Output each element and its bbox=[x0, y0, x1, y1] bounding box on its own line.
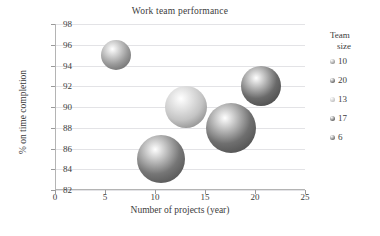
y-axis-tick-mark bbox=[51, 45, 55, 46]
y-axis-tick-mark bbox=[51, 107, 55, 108]
data-point-bubble bbox=[241, 66, 281, 106]
x-axis-tick-mark bbox=[105, 190, 106, 194]
data-point-bubble bbox=[137, 135, 185, 183]
y-axis-tick-mark bbox=[51, 24, 55, 25]
x-axis-tick-mark bbox=[255, 190, 256, 194]
legend-item[interactable]: 10 bbox=[330, 52, 378, 71]
plot-area bbox=[55, 24, 305, 190]
legend-title-line2: size bbox=[330, 41, 378, 52]
legend-item-label: 13 bbox=[338, 95, 347, 104]
bubble-chart: Work team performance % on time completi… bbox=[0, 0, 380, 236]
legend-item[interactable]: 20 bbox=[330, 71, 378, 90]
legend-title-line1: Team bbox=[330, 30, 378, 41]
data-points-layer bbox=[56, 24, 305, 189]
legend-item[interactable]: 17 bbox=[330, 109, 378, 128]
y-axis-tick-mark bbox=[51, 169, 55, 170]
x-axis-label: Number of projects (year) bbox=[55, 205, 305, 215]
legend-item-label: 10 bbox=[338, 57, 347, 66]
x-axis-tick-mark bbox=[55, 190, 56, 194]
legend-items: 102013176 bbox=[330, 52, 378, 147]
legend-swatch-icon bbox=[330, 116, 335, 121]
legend-swatch-icon bbox=[330, 97, 335, 102]
legend-item-label: 17 bbox=[338, 114, 347, 123]
legend-item-label: 20 bbox=[338, 76, 347, 85]
data-point-bubble bbox=[165, 86, 207, 128]
x-axis-tick-mark bbox=[155, 190, 156, 194]
legend-swatch-icon bbox=[330, 59, 335, 64]
x-axis-tick-mark bbox=[305, 190, 306, 194]
legend-item[interactable]: 6 bbox=[330, 128, 378, 147]
legend-swatch-icon bbox=[330, 78, 335, 83]
legend: Team size 102013176 bbox=[330, 30, 378, 147]
y-axis-tick-mark bbox=[51, 128, 55, 129]
y-axis-tick-mark bbox=[51, 66, 55, 67]
legend-swatch-icon bbox=[330, 135, 335, 140]
legend-item[interactable]: 13 bbox=[330, 90, 378, 109]
legend-item-label: 6 bbox=[338, 133, 343, 142]
x-axis-tick-mark bbox=[205, 190, 206, 194]
gridline bbox=[56, 190, 305, 191]
y-axis-label: % on time completion bbox=[18, 37, 28, 187]
data-point-bubble bbox=[206, 103, 256, 153]
y-axis-tick-mark bbox=[51, 86, 55, 87]
y-axis-tick-mark bbox=[51, 149, 55, 150]
data-point-bubble bbox=[101, 40, 131, 70]
chart-title: Work team performance bbox=[55, 6, 305, 16]
